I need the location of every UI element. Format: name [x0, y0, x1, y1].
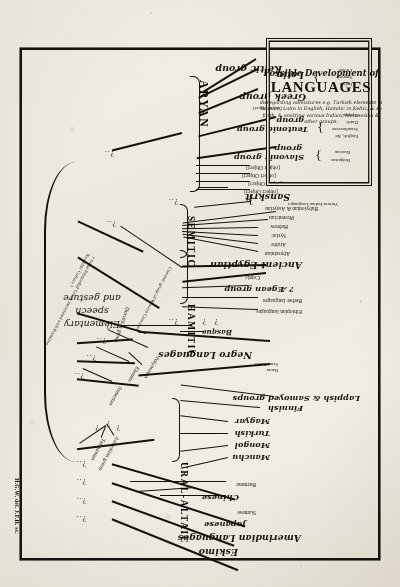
label-negro-languages: Negro Languages	[158, 351, 252, 360]
caucasic-line	[120, 226, 182, 268]
isolate-tick	[130, 481, 226, 482]
aryan-line	[198, 187, 228, 188]
label-arabic: Arabic	[271, 242, 286, 247]
plate-border: Elementary speech and gesture Burmese Ch…	[20, 48, 380, 560]
paper-speck	[360, 300, 362, 303]
label-amerindian: Amerindian Languages	[178, 534, 301, 543]
title-note: disregarding admixtures e.g. Turkish ele…	[259, 99, 383, 124]
node-mark: ?..	[76, 477, 86, 486]
label-siamese: Siamese	[237, 510, 256, 515]
query-mark: ?	[106, 419, 110, 428]
node-mark: ?..	[74, 371, 84, 380]
label-mongol: Mongol	[235, 442, 270, 450]
paper-speck	[300, 565, 302, 567]
label-coptic: Coptic	[245, 275, 260, 280]
paper-speck	[150, 12, 152, 14]
label-phoenician: Phoenician	[269, 215, 294, 220]
negro-line-top	[138, 363, 270, 376]
ua-line	[180, 415, 228, 422]
label-ethiopian: Ethiopian languages	[256, 309, 302, 314]
label-magyar: Magyar	[235, 418, 270, 426]
label-aegean: ? Ægean group	[224, 286, 294, 294]
title-subtitle: Possible Development of	[263, 68, 378, 78]
node-mark: ?..	[76, 514, 86, 523]
node-mark: ?..	[104, 149, 114, 158]
artist-signature: H.G.W. del. J.F.H. sc.	[14, 478, 20, 534]
aryan-line	[194, 201, 250, 208]
query-mark: ?	[214, 317, 218, 326]
aryan-bracket	[190, 76, 200, 192]
label-syriac: Syriac	[272, 233, 286, 238]
label-polynesian: Polynesian	[143, 355, 160, 379]
elamite-line	[96, 347, 129, 362]
label-semi-bantu: Semi-Bantu	[255, 361, 278, 366]
ural-altaic-bracket	[172, 398, 180, 462]
label-manchu: Manchu	[232, 454, 270, 462]
label-bantu: Bantu	[267, 367, 278, 372]
label-japanese: Japanese	[204, 521, 246, 529]
label-ancient-egyptian: Ancient Egyptian	[210, 261, 302, 270]
label-chinese: Chinese	[202, 494, 239, 502]
node-mark: ?..	[168, 197, 178, 206]
aryan-line	[196, 189, 250, 190]
label-lappish-samoyed: Lappish & Samoyed groups	[233, 395, 360, 403]
family-ural-altaic: URAL-ALTAIC	[179, 462, 189, 544]
label-turkish: Turkish	[234, 430, 270, 438]
label-eskimo: Eskimo	[199, 548, 238, 557]
node-mark: ?..	[86, 353, 96, 362]
label-persian: [object Object]	[244, 189, 278, 194]
language-tree-plate: Elementary speech and gesture Burmese Ch…	[0, 0, 400, 587]
node-mark: ?..	[76, 459, 86, 468]
label-abyssinian: Abyssinian	[265, 251, 290, 256]
ua-line	[180, 445, 228, 452]
sanskrit-brace: }	[247, 195, 254, 207]
query-mark: ?	[202, 317, 206, 326]
title-main: LANGUAGES	[271, 79, 371, 96]
ham-line	[182, 297, 258, 298]
query-mark: ?	[116, 423, 120, 432]
node-mark: ?..	[76, 496, 86, 505]
query-mark: ?	[95, 423, 99, 432]
aryan-line	[196, 181, 250, 182]
label-hebrew: Hebrew	[270, 224, 288, 229]
node-mark: ?..	[96, 336, 106, 345]
label-burmese: Burmese	[236, 482, 256, 487]
aryan-line	[196, 165, 250, 166]
label-various-indian: Various Indian Languages	[288, 201, 338, 206]
node-mark: ?..	[106, 219, 116, 228]
title-cartouche: Possible Development of LANGUAGES disreg…	[266, 38, 372, 186]
label-berber: Berber languages	[263, 298, 302, 303]
sem-line	[182, 227, 258, 229]
label-basque: Basque	[202, 329, 232, 336]
label-caucasic: Caucasic group of Western Caucasus	[134, 266, 172, 331]
aryan-trunk-line	[112, 132, 182, 151]
ua-line	[180, 433, 228, 434]
paper-speck	[38, 560, 41, 562]
title-cartouche-rotated: Possible Development of LANGUAGES disreg…	[251, 65, 391, 165]
dravidian-line	[120, 325, 192, 326]
label-finnish: Finnish	[268, 405, 303, 413]
family-hamitic: HAMITIC	[186, 304, 196, 358]
label-sumerian: Sumerian	[108, 385, 123, 406]
node-mark: ?..	[168, 317, 178, 326]
